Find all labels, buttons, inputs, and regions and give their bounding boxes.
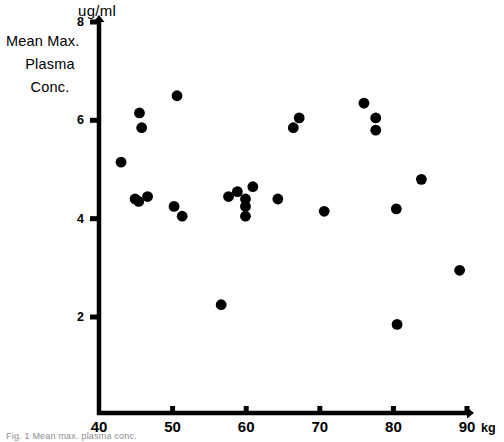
data-point bbox=[136, 122, 147, 133]
x-tick-mark bbox=[170, 406, 175, 414]
data-point bbox=[240, 201, 251, 212]
data-point bbox=[130, 194, 141, 205]
data-point bbox=[392, 319, 403, 330]
data-point bbox=[370, 125, 381, 136]
y-tick-mark bbox=[90, 315, 99, 320]
data-point bbox=[294, 112, 305, 123]
data-point bbox=[172, 90, 183, 101]
data-point bbox=[216, 299, 227, 310]
y-tick-label: 4 bbox=[62, 212, 84, 226]
data-point bbox=[177, 211, 188, 222]
data-point bbox=[240, 211, 251, 222]
y-tick-mark bbox=[90, 118, 99, 123]
x-tick-label: 70 bbox=[311, 418, 328, 435]
data-point bbox=[359, 98, 370, 109]
data-point bbox=[288, 122, 299, 133]
y-tick-mark bbox=[90, 216, 99, 221]
data-point bbox=[454, 265, 465, 276]
x-tick-mark bbox=[465, 406, 470, 414]
x-tick-label: 60 bbox=[238, 418, 255, 435]
x-tick-label: 80 bbox=[385, 418, 402, 435]
data-point bbox=[416, 174, 427, 185]
axes-group bbox=[94, 15, 475, 419]
data-point bbox=[247, 181, 258, 192]
data-point bbox=[134, 108, 145, 119]
data-point bbox=[319, 206, 330, 217]
y-tick-mark bbox=[90, 20, 99, 25]
data-point bbox=[142, 191, 153, 202]
data-point bbox=[116, 157, 127, 168]
data-points-group bbox=[116, 90, 465, 329]
data-point bbox=[232, 186, 243, 197]
figure-root: ug/ml Mean Max. Plasma Conc. 2468 405060… bbox=[0, 0, 504, 442]
axis-lines bbox=[99, 22, 467, 413]
data-point bbox=[169, 201, 180, 212]
y-tick-label: 6 bbox=[62, 113, 84, 127]
x-tick-label: 50 bbox=[164, 418, 181, 435]
data-point bbox=[272, 194, 283, 205]
y-tick-label: 8 bbox=[62, 15, 84, 29]
x-axis-unit-label: kg bbox=[481, 421, 496, 435]
data-point bbox=[370, 112, 381, 123]
x-tick-label: 90 bbox=[459, 418, 476, 435]
figure-caption: Fig. 1 Mean max. plasma conc. bbox=[6, 431, 137, 441]
x-tick-mark bbox=[391, 406, 396, 414]
x-tick-mark bbox=[317, 406, 322, 414]
x-tick-mark bbox=[244, 406, 249, 414]
y-tick-label: 2 bbox=[62, 310, 84, 324]
data-point bbox=[391, 203, 402, 214]
